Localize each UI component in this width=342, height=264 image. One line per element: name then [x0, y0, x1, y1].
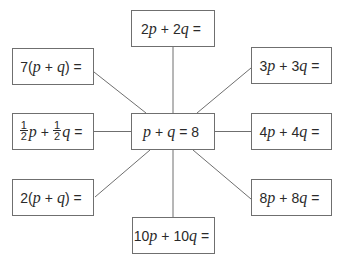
plus-sign: + — [161, 228, 169, 244]
node-top-left: 7(p+q)= — [12, 48, 94, 85]
variable-q: q — [299, 57, 307, 75]
coefficient: 7( — [20, 59, 32, 75]
node-mid-right: 4p+4q= — [251, 113, 332, 150]
coefficient: 2 — [141, 21, 149, 37]
node-top: 2p+2q= — [131, 10, 215, 47]
plus-sign: + — [41, 124, 49, 140]
plus-sign: + — [45, 59, 53, 75]
variable-p: p — [267, 123, 275, 141]
connector-top-left — [94, 72, 146, 113]
equals-sign: = — [193, 21, 201, 37]
equals-eight: = 8 — [179, 124, 199, 140]
node-bottom-right-expression: 8p+8q= — [260, 189, 324, 207]
variable-q: q — [57, 58, 65, 76]
plus-sign: + — [155, 124, 163, 140]
close-paren: ) — [65, 59, 70, 75]
plus-sign: + — [279, 58, 287, 74]
node-top-right-expression: 3p+3q= — [260, 57, 324, 75]
node-bottom-left-expression: 2(p+q)= — [20, 189, 86, 207]
coefficient: 3 — [292, 58, 300, 74]
close-paren: ) — [65, 190, 70, 206]
node-mid-left-expression: 12p+12q= — [20, 121, 87, 142]
node-bottom: 10p+10q= — [132, 217, 215, 254]
variable-q: q — [167, 123, 175, 141]
spider-diagram: 2p+2q= 7(p+q)= 3p+3q= 12p+12q= p+q= 8 4p… — [0, 0, 342, 264]
node-bottom-left: 2(p+q)= — [12, 179, 94, 216]
node-mid-right-expression: 4p+4q= — [260, 123, 324, 141]
denominator: 2 — [20, 131, 28, 141]
coefficient: 10 — [134, 228, 150, 244]
coefficient: 10 — [174, 228, 190, 244]
plus-sign: + — [279, 190, 287, 206]
equals-sign: = — [74, 59, 82, 75]
variable-q: q — [299, 189, 307, 207]
equals-sign: = — [74, 190, 82, 206]
connector-bottom-left — [95, 150, 150, 197]
coefficient: 2 — [173, 21, 181, 37]
node-top-expression: 2p+2q= — [141, 20, 205, 38]
node-top-right: 3p+3q= — [251, 47, 332, 84]
variable-p: p — [267, 57, 275, 75]
variable-p: p — [149, 227, 157, 245]
variable-q: q — [57, 189, 65, 207]
plus-sign: + — [161, 21, 169, 37]
node-bottom-right: 8p+8q= — [251, 179, 332, 216]
equals-sign: = — [311, 124, 319, 140]
node-top-left-expression: 7(p+q)= — [20, 58, 86, 76]
node-bottom-expression: 10p+10q= — [134, 227, 214, 245]
variable-q: q — [62, 123, 70, 141]
variable-p: p — [267, 189, 275, 207]
coefficient: 8 — [292, 190, 300, 206]
variable-p: p — [33, 189, 41, 207]
variable-q: q — [299, 123, 307, 141]
variable-p: p — [143, 123, 151, 141]
variable-p: p — [33, 58, 41, 76]
equals-sign: = — [74, 124, 82, 140]
coefficient: 2( — [20, 190, 32, 206]
connector-bottom-right — [193, 150, 251, 199]
denominator: 2 — [53, 131, 61, 141]
equals-sign: = — [311, 58, 319, 74]
variable-p: p — [29, 123, 37, 141]
plus-sign: + — [45, 190, 53, 206]
fraction-half: 12 — [20, 120, 28, 141]
node-center: p+q= 8 — [131, 113, 215, 150]
variable-p: p — [149, 20, 157, 38]
coefficient: 4 — [292, 124, 300, 140]
equals-sign: = — [201, 228, 209, 244]
fraction-half: 12 — [53, 120, 61, 141]
variable-q: q — [189, 227, 197, 245]
connector-top-right — [197, 68, 251, 113]
equals-sign: = — [311, 190, 319, 206]
variable-q: q — [181, 20, 189, 38]
node-center-expression: p+q= 8 — [143, 123, 203, 141]
plus-sign: + — [279, 124, 287, 140]
node-mid-left: 12p+12q= — [12, 113, 94, 150]
